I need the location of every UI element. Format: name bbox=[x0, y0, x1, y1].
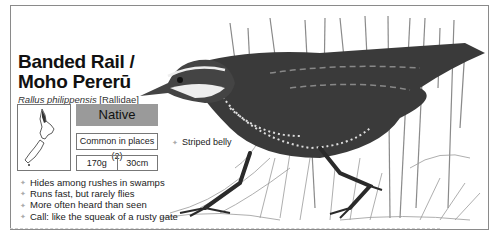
fact-item: Hides among rushes in swamps bbox=[20, 177, 178, 188]
bullet-icon bbox=[172, 140, 177, 145]
bullet-icon bbox=[20, 214, 25, 219]
title-maori: Moho Pererū bbox=[18, 72, 134, 92]
species-title: Banded Rail / Moho Pererū bbox=[18, 52, 134, 92]
distribution-map bbox=[17, 104, 71, 171]
bullet-icon bbox=[20, 203, 25, 208]
weight-value: 170g bbox=[77, 156, 117, 170]
abundance-label: Common in places (2) bbox=[76, 133, 158, 150]
fact-item: Call: like the squeak of a rusty gate bbox=[20, 211, 178, 222]
new-zealand-map-icon bbox=[18, 105, 70, 170]
fact-item: Runs fast, but rarely flies bbox=[20, 188, 178, 199]
status-badge: Native bbox=[76, 104, 158, 126]
bullet-icon bbox=[20, 180, 25, 185]
fact-item: More often heard than seen bbox=[20, 199, 178, 210]
facts-list: Hides among rushes in swamps Runs fast, … bbox=[20, 177, 178, 222]
size-info: 170g 30cm bbox=[76, 155, 158, 171]
length-value: 30cm bbox=[117, 156, 158, 170]
callout-striped-belly: Striped belly bbox=[172, 137, 232, 147]
bullet-icon bbox=[20, 191, 25, 196]
title-english: Banded Rail / bbox=[18, 52, 134, 72]
